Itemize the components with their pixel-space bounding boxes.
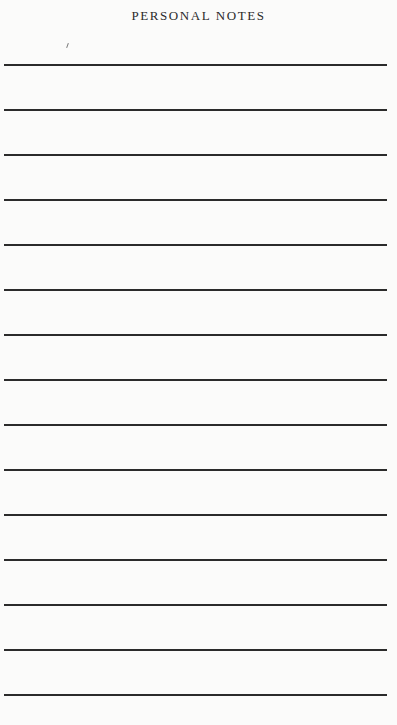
ruled-line <box>4 244 387 246</box>
ruled-line <box>4 334 387 336</box>
stray-mark <box>66 43 69 48</box>
ruled-line <box>4 469 387 471</box>
ruled-line <box>4 379 387 381</box>
ruled-line <box>4 64 387 66</box>
ruled-line <box>4 289 387 291</box>
ruled-line <box>4 109 387 111</box>
ruled-line <box>4 604 387 606</box>
ruled-line <box>4 694 387 696</box>
ruled-line <box>4 154 387 156</box>
ruled-line <box>4 559 387 561</box>
ruled-line <box>4 199 387 201</box>
page-title: PERSONAL NOTES <box>0 8 397 24</box>
ruled-line <box>4 514 387 516</box>
ruled-line <box>4 649 387 651</box>
ruled-line <box>4 424 387 426</box>
